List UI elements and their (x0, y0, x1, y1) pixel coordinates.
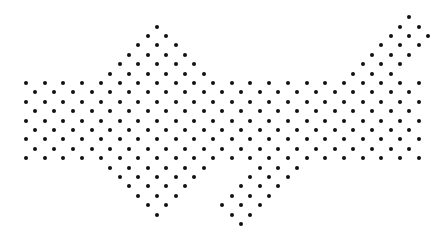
dot (99, 156, 103, 160)
dot (220, 90, 224, 94)
dot (295, 109, 299, 113)
dot (192, 137, 196, 141)
dot (379, 156, 383, 160)
dot (90, 128, 94, 132)
dot (118, 156, 122, 160)
dot (136, 62, 140, 66)
dot (108, 128, 112, 132)
dot (305, 119, 309, 123)
dot (155, 100, 159, 104)
dot (389, 34, 393, 38)
dot (267, 175, 271, 179)
dot (267, 156, 271, 160)
dot (323, 156, 327, 160)
dot (370, 109, 374, 113)
dot (52, 128, 56, 132)
dot (407, 34, 411, 38)
dot (258, 147, 262, 151)
dot (174, 62, 178, 66)
dot (155, 62, 159, 66)
dot (295, 90, 299, 94)
dot (80, 137, 84, 141)
dot (379, 100, 383, 104)
dot (146, 90, 150, 94)
dot (99, 119, 103, 123)
dot (183, 184, 187, 188)
dot (407, 53, 411, 57)
dot (389, 128, 393, 132)
dot (183, 53, 187, 57)
dot (146, 166, 150, 170)
dot (239, 109, 243, 113)
dot (248, 175, 252, 179)
dot (99, 137, 103, 141)
dot (155, 175, 159, 179)
dot (164, 34, 168, 38)
dot (118, 119, 122, 123)
dot (202, 109, 206, 113)
dot (164, 147, 168, 151)
dot (99, 100, 103, 104)
dot (43, 119, 47, 123)
dot (361, 81, 365, 85)
dot (276, 90, 280, 94)
dot (99, 81, 103, 85)
dot (174, 119, 178, 123)
dot (146, 109, 150, 113)
dot (155, 137, 159, 141)
dot (192, 119, 196, 123)
dot (155, 119, 159, 123)
dot (342, 100, 346, 104)
dot (342, 81, 346, 85)
dot (80, 156, 84, 160)
dot (164, 72, 168, 76)
dot (398, 119, 402, 123)
dot (267, 119, 271, 123)
dot (211, 81, 215, 85)
dot (407, 147, 411, 151)
dot (426, 34, 430, 38)
dot (155, 25, 159, 29)
dot (164, 184, 168, 188)
dot (146, 147, 150, 151)
dot (407, 90, 411, 94)
dot (230, 213, 234, 217)
dot (220, 147, 224, 151)
dot (239, 184, 243, 188)
dot (333, 128, 337, 132)
dot (248, 81, 252, 85)
dot (379, 62, 383, 66)
dot (267, 100, 271, 104)
dot (108, 90, 112, 94)
dot (127, 184, 131, 188)
dot (24, 100, 28, 104)
dot (351, 109, 355, 113)
dot (127, 90, 131, 94)
dot (323, 119, 327, 123)
dot (90, 90, 94, 94)
dot (108, 72, 112, 76)
dot (258, 166, 262, 170)
dot (417, 81, 421, 85)
dot (361, 137, 365, 141)
dot (417, 100, 421, 104)
dot (43, 137, 47, 141)
dot (389, 109, 393, 113)
dot (314, 128, 318, 132)
dot (155, 43, 159, 47)
dot (305, 81, 309, 85)
dot (220, 128, 224, 132)
dot (52, 90, 56, 94)
dot (71, 128, 75, 132)
dot (286, 137, 290, 141)
dot (174, 175, 178, 179)
dot (52, 109, 56, 113)
dot (164, 90, 168, 94)
dot (286, 100, 290, 104)
dot (164, 53, 168, 57)
dot (71, 147, 75, 151)
dot (202, 72, 206, 76)
dot (220, 109, 224, 113)
dot (295, 128, 299, 132)
dot (192, 100, 196, 104)
